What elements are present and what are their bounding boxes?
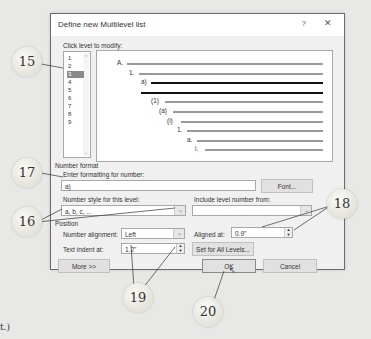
position-section-label: Position bbox=[55, 220, 78, 227]
level-item-2[interactable]: 2 bbox=[67, 63, 84, 70]
level-item-9[interactable]: 9 bbox=[67, 119, 84, 126]
callout-16: 16 bbox=[12, 207, 42, 237]
callout-15: 15 bbox=[12, 47, 42, 77]
callout-20: 20 bbox=[193, 297, 223, 327]
preview-row: 1. bbox=[97, 127, 332, 135]
number-format-section-label: Number format bbox=[55, 162, 98, 169]
preview-line bbox=[139, 73, 323, 75]
preview-line bbox=[205, 149, 323, 151]
include-level-select[interactable]: ⌄ bbox=[192, 205, 312, 216]
preview-row: i. bbox=[97, 146, 332, 154]
aligned-at-spinner[interactable]: ▲▼ bbox=[284, 228, 292, 237]
leader-20 bbox=[214, 271, 224, 300]
preview-number-label: 1. bbox=[177, 126, 182, 133]
title-bar: Define new Multilevel list ? ✕ bbox=[51, 14, 344, 36]
include-level-label: Include level number from: bbox=[194, 196, 271, 203]
mouse-cursor-icon: ↖ bbox=[229, 266, 236, 275]
text-indent-input[interactable]: 1.2" ▲▼ bbox=[121, 243, 185, 254]
preview-line bbox=[181, 121, 323, 123]
set-for-all-levels-button[interactable]: Set for All Levels... bbox=[192, 242, 254, 256]
font-button[interactable]: Font... bbox=[261, 179, 313, 193]
preview-row: a) bbox=[97, 79, 332, 87]
level-item-6[interactable]: 6 bbox=[67, 95, 84, 102]
preview-row: (a) bbox=[97, 108, 332, 116]
text-indent-spinner[interactable]: ▲▼ bbox=[176, 244, 184, 253]
preview-line bbox=[165, 101, 323, 103]
preview-line-selected bbox=[151, 82, 323, 84]
level-item-7[interactable]: 7 bbox=[67, 103, 84, 110]
level-item-8[interactable]: 8 bbox=[67, 111, 84, 118]
formatting-input[interactable]: a) bbox=[61, 180, 256, 191]
enter-formatting-label: Enter formatting for number: bbox=[63, 171, 144, 178]
aligned-at-input[interactable]: 0.9" ▲▼ bbox=[231, 227, 293, 238]
number-style-label: Number style for this level: bbox=[63, 196, 140, 203]
aligned-at-value: 0.9" bbox=[235, 230, 246, 237]
level-list[interactable]: ⌃ ⌄ 123456789 bbox=[63, 51, 91, 158]
preview-line bbox=[187, 130, 323, 132]
chevron-down-icon[interactable]: ⌄ bbox=[174, 206, 185, 215]
number-style-value: a, b, c, ... bbox=[65, 208, 92, 215]
preview-number-label: (1) bbox=[151, 97, 159, 104]
more-button[interactable]: More >> bbox=[58, 259, 110, 273]
preview-line bbox=[127, 63, 323, 65]
preview-number-label: (a) bbox=[159, 107, 167, 114]
callout-18: 18 bbox=[327, 189, 357, 219]
callout-17: 17 bbox=[12, 158, 42, 188]
dialog-title: Define new Multilevel list bbox=[58, 20, 146, 29]
footnote-text: t.) bbox=[0, 322, 10, 332]
preview-row: (i) bbox=[97, 118, 332, 126]
preview-row: (1) bbox=[97, 98, 332, 106]
text-indent-value: 1.2" bbox=[125, 246, 136, 253]
list-preview: A.1.a)(1)(a)(i)1.a.i. bbox=[96, 50, 333, 162]
preview-number-label: 1. bbox=[129, 69, 134, 76]
preview-number-label: A. bbox=[117, 59, 123, 66]
preview-row: A. bbox=[97, 60, 332, 68]
level-item-3[interactable]: 3 bbox=[67, 71, 84, 78]
click-level-label: Click level to modify: bbox=[63, 42, 122, 49]
preview-row: a. bbox=[97, 137, 332, 145]
help-button[interactable]: ? bbox=[302, 19, 306, 28]
number-alignment-value: Left bbox=[125, 231, 136, 238]
preview-number-label: a. bbox=[187, 136, 192, 143]
number-alignment-label: Number alignment: bbox=[63, 231, 118, 238]
level-item-5[interactable]: 5 bbox=[67, 87, 84, 94]
number-alignment-select[interactable]: Left ⌄ bbox=[121, 228, 185, 239]
preview-line bbox=[173, 111, 323, 113]
preview-line bbox=[197, 140, 323, 142]
preview-line-selected bbox=[141, 92, 323, 94]
preview-number-label: a) bbox=[141, 78, 147, 85]
preview-number-label: i. bbox=[195, 145, 198, 152]
cancel-button[interactable]: Cancel bbox=[263, 259, 317, 273]
preview-row bbox=[97, 89, 332, 97]
number-style-select[interactable]: a, b, c, ... ⌄ bbox=[61, 205, 186, 216]
callout-19: 19 bbox=[123, 283, 153, 313]
define-multilevel-list-dialog: Define new Multilevel list ? ✕ Click lev… bbox=[50, 13, 345, 270]
formatting-value: a) bbox=[65, 183, 71, 190]
preview-row: 1. bbox=[97, 70, 332, 78]
aligned-at-label: Aligned at: bbox=[194, 231, 225, 238]
text-indent-label: Text indent at: bbox=[63, 246, 103, 253]
level-item-4[interactable]: 4 bbox=[67, 79, 84, 86]
chevron-down-icon[interactable]: ⌄ bbox=[300, 206, 311, 215]
chevron-down-icon[interactable]: ⌄ bbox=[173, 229, 184, 238]
close-icon[interactable]: ✕ bbox=[324, 18, 332, 28]
level-item-1[interactable]: 1 bbox=[67, 55, 84, 62]
preview-number-label: (i) bbox=[167, 117, 173, 124]
scroll-down-icon[interactable]: ⌄ bbox=[83, 149, 89, 155]
